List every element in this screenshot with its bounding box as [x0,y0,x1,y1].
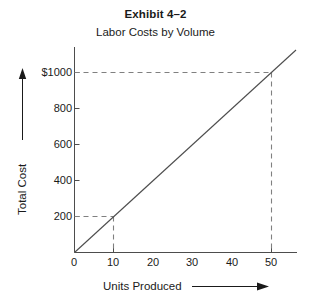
x-tick-label-40: 40 [226,256,238,268]
x-tick-label-0: 0 [71,256,77,268]
x-tick-label-10: 10 [107,256,119,268]
chart-figure: Exhibit 4–2 Labor Costs by Volume $1000 … [0,0,311,302]
x-axis-title: Units Produced [103,280,182,292]
x-axis-arrow-icon [257,283,269,291]
y-tick-label-1000: $1000 [8,66,72,78]
x-tick-label-30: 30 [186,256,198,268]
y-tick-label-600: 600 [8,138,72,150]
cost-line-series [75,50,297,253]
y-tick-label-800: 800 [8,102,72,114]
x-tick-label-20: 20 [147,256,159,268]
y-axis-title: Total Cost [16,164,28,215]
x-tick-label-50: 50 [265,256,277,268]
